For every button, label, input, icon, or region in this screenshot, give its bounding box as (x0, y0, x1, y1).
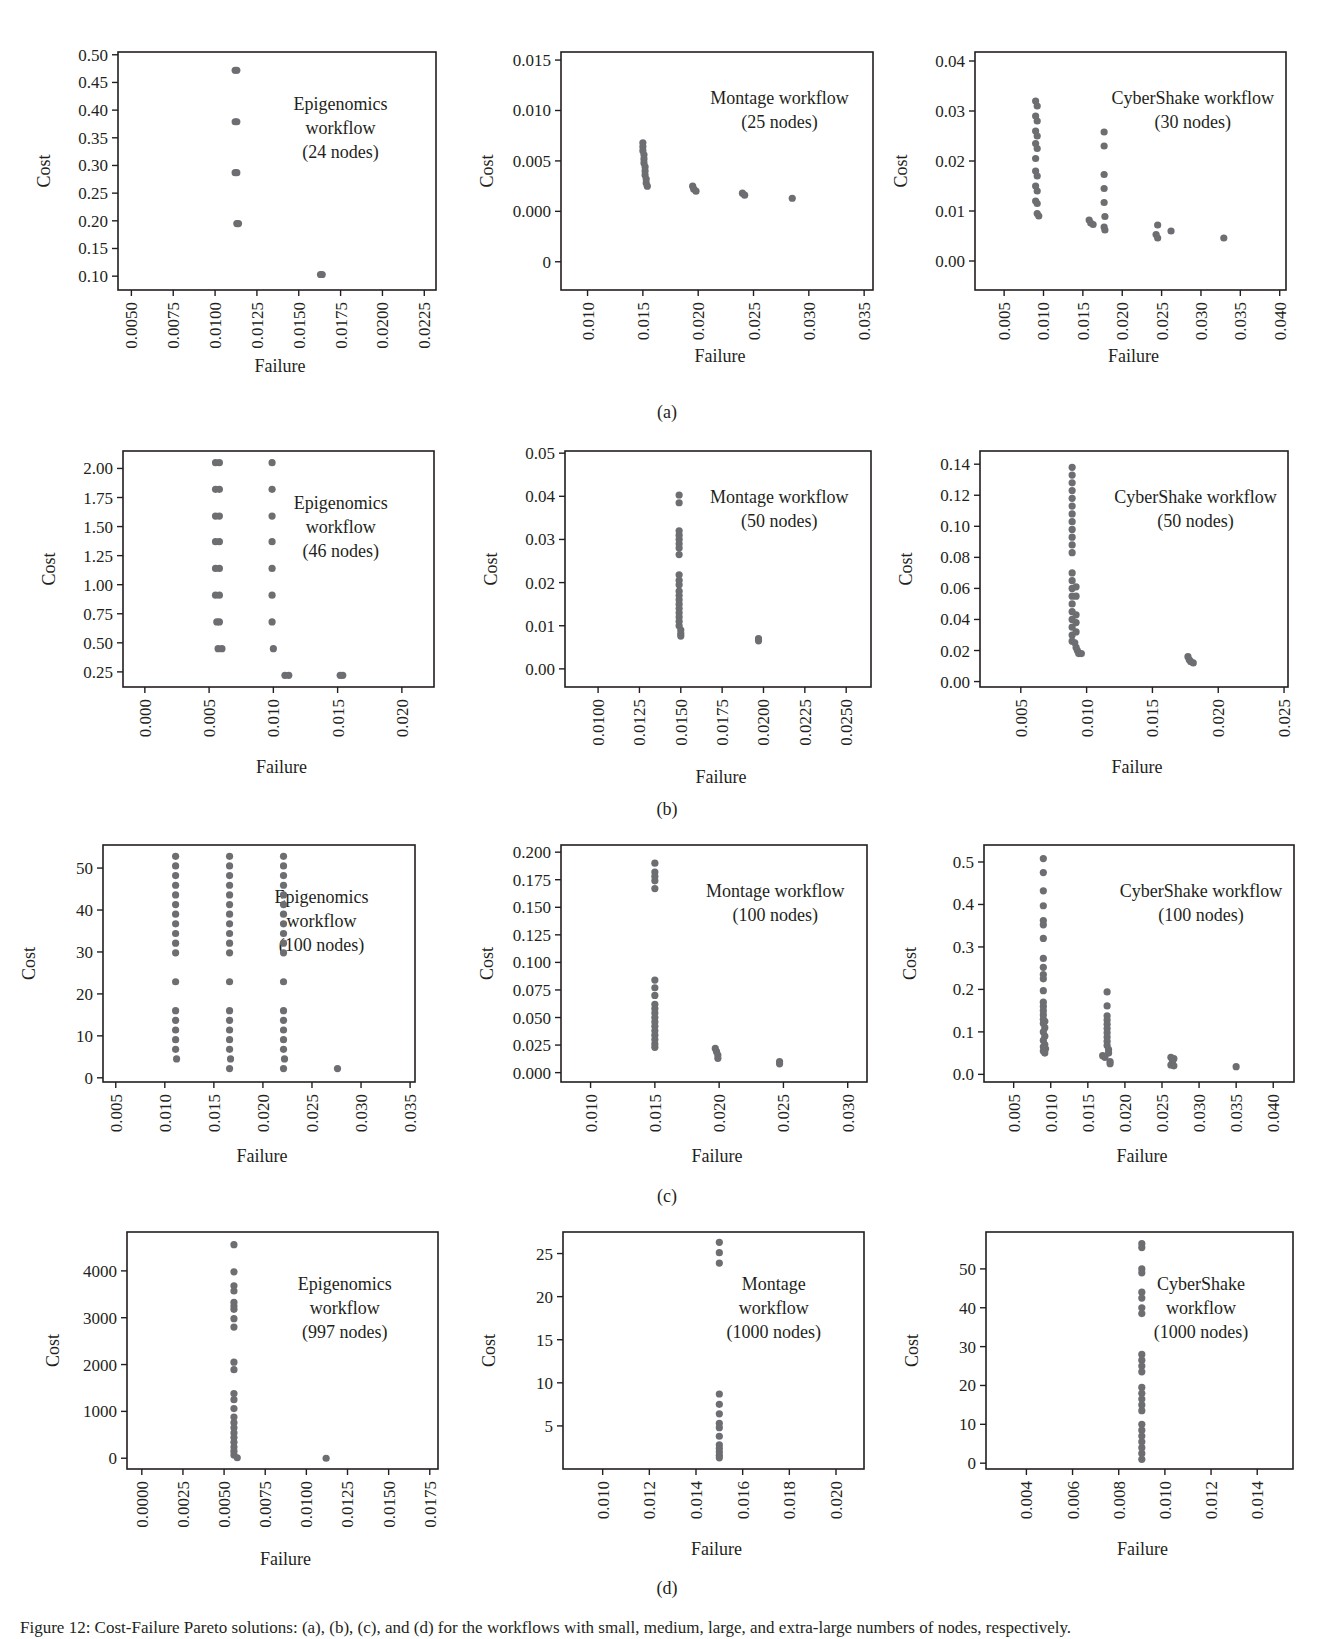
data-point (172, 1036, 179, 1043)
y-axis-label: Cost (477, 154, 497, 187)
data-point (1101, 185, 1108, 192)
data-point (172, 872, 179, 879)
y-tick-label: 0.010 (513, 101, 551, 120)
row-label: (a) (657, 402, 677, 423)
data-point (1034, 145, 1041, 152)
data-point (226, 1007, 233, 1014)
x-tick-label: 0.010 (156, 1094, 175, 1132)
x-tick-label: 0.010 (579, 302, 598, 340)
x-tick-label: 0.0150 (672, 699, 691, 746)
x-tick-label: 0.015 (634, 302, 653, 340)
y-tick-label: 0.000 (513, 1064, 551, 1083)
data-point (1072, 583, 1079, 590)
data-point (323, 1455, 330, 1462)
y-tick-label: 0.5 (953, 853, 974, 872)
y-tick-label: 0.050 (513, 1009, 551, 1028)
chart-annotation: Montage (742, 1274, 806, 1294)
x-tick-label: 0.0225 (796, 699, 815, 746)
x-tick-label: 0.0200 (373, 302, 392, 349)
x-tick-label: 0.030 (352, 1094, 371, 1132)
data-point (1220, 234, 1227, 241)
y-tick-label: 0.0 (953, 1065, 974, 1084)
data-point (1170, 1062, 1177, 1069)
data-point (268, 618, 275, 625)
data-point (268, 565, 275, 572)
data-point (230, 1241, 237, 1248)
x-tick-label: 0.005 (107, 1094, 126, 1132)
y-tick-label: 0.125 (513, 926, 551, 945)
data-point (1138, 1294, 1145, 1301)
y-tick-label: 0.08 (940, 548, 970, 567)
data-point (1138, 1368, 1145, 1375)
y-tick-label: 0.06 (940, 579, 970, 598)
data-point (172, 1046, 179, 1053)
x-tick-label: 0.015 (1074, 302, 1093, 340)
data-point (172, 862, 179, 869)
x-tick-label: 0.010 (1156, 1481, 1175, 1519)
x-tick-label: 0.008 (1110, 1481, 1129, 1519)
data-point (1106, 1060, 1113, 1067)
chart-annotation: (30 nodes) (1154, 112, 1230, 133)
x-tick-label: 0.020 (254, 1094, 273, 1132)
x-tick-label: 0.025 (1153, 302, 1172, 340)
chart-annotation: Epigenomics (294, 94, 388, 114)
data-point (1041, 1050, 1048, 1057)
y-tick-label: 0.000 (513, 202, 551, 221)
x-tick-label: 0.0150 (290, 302, 309, 349)
y-tick-label: 0.00 (935, 252, 965, 271)
data-point (268, 459, 275, 466)
data-point (226, 901, 233, 908)
y-tick-label: 0.04 (935, 52, 965, 71)
chart-annotation: workflow (286, 911, 356, 931)
y-tick-label: 0.03 (935, 102, 965, 121)
x-tick-label: 0.004 (1017, 1481, 1036, 1520)
data-point (230, 1405, 237, 1412)
data-point (1040, 921, 1047, 928)
data-point (216, 592, 223, 599)
data-point (716, 1454, 723, 1461)
data-point (280, 1007, 287, 1014)
data-point (230, 1268, 237, 1275)
data-points (172, 853, 341, 1072)
data-point (1034, 200, 1041, 207)
x-tick-label: 0.020 (1113, 302, 1132, 340)
chart-panel-a2: 00.0000.0050.0100.0150.0100.0150.0200.02… (477, 51, 874, 366)
data-point (1104, 988, 1111, 995)
x-tick-label: 0.010 (1078, 699, 1097, 737)
x-tick-label: 0.015 (329, 699, 348, 737)
data-point (280, 872, 287, 879)
y-tick-label: 0.03 (525, 530, 555, 549)
data-point (676, 491, 683, 498)
y-axis-label: Cost (34, 154, 54, 187)
data-point (280, 1026, 287, 1033)
y-tick-label: 0.10 (78, 267, 108, 286)
x-tick-label: 0.030 (839, 1094, 858, 1132)
x-tick-label: 0.030 (1190, 1094, 1209, 1132)
x-tick-label: 0.025 (303, 1094, 322, 1132)
x-tick-label: 0.0175 (421, 1481, 440, 1528)
data-point (233, 67, 240, 74)
data-point (1040, 935, 1047, 942)
data-point (280, 853, 287, 860)
data-point (172, 901, 179, 908)
data-point (1034, 132, 1041, 139)
data-point (1040, 887, 1047, 894)
chart-panel-d2: 5101520250.0100.0120.0140.0160.0180.020F… (479, 1232, 864, 1559)
plot-frame (127, 1232, 438, 1469)
x-tick-label: 0.030 (800, 302, 819, 340)
data-point (339, 672, 346, 679)
x-tick-label: 0.0125 (338, 1481, 357, 1528)
x-axis-label: Failure (691, 1539, 742, 1559)
data-point (714, 1055, 721, 1062)
data-point (1040, 869, 1047, 876)
y-tick-label: 0.025 (513, 1036, 551, 1055)
data-point (285, 672, 292, 679)
data-point (692, 188, 699, 195)
y-tick-label: 4000 (83, 1262, 117, 1281)
data-point (1101, 128, 1108, 135)
x-tick-label: 0.0100 (589, 699, 608, 746)
chart-annotation: (1000 nodes) (1154, 1322, 1248, 1343)
y-tick-label: 10 (76, 1027, 93, 1046)
x-axis-label: Failure (256, 757, 307, 777)
chart-annotation: (50 nodes) (741, 511, 817, 532)
